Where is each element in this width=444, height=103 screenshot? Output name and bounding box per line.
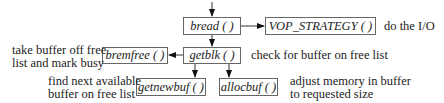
allocbuf-annotation-line2: to requested size	[290, 88, 373, 101]
getnewbuf-node: getnewbuf ( )	[136, 78, 206, 96]
bread-node: bread ( )	[183, 17, 241, 35]
vop-strategy-annotation: do the I/O	[384, 20, 435, 33]
allocbuf-node: allocbuf ( )	[219, 78, 278, 96]
getnewbuf-annotation-line2: buffer on free list	[48, 88, 135, 101]
getblk-node: getblk ( )	[183, 47, 241, 64]
bremfree-node: bremfree ( )	[102, 47, 168, 64]
getblk-annotation: check for buffer on free list	[251, 49, 388, 62]
bremfree-annotation-line2: list and mark busy	[12, 57, 104, 70]
vop-strategy-node: VOP_STRATEGY ( )	[265, 17, 376, 35]
